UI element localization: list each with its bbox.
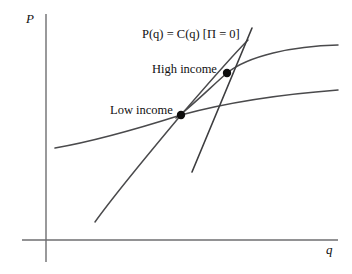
figure-canvas [0, 0, 352, 274]
zero-profit-line [192, 28, 252, 172]
high-income-label: High income [152, 63, 217, 76]
low-income-label: Low income [110, 104, 173, 117]
x-axis-label: q [326, 243, 333, 256]
lower-concave-curve [55, 90, 338, 148]
zero-profit-label: P(q) = C(q) [Π = 0] [142, 28, 240, 41]
high-income-point [223, 69, 231, 77]
upper-concave-curve [176, 45, 338, 118]
y-axis-label: P [26, 12, 34, 25]
low-income-point [177, 111, 185, 119]
economics-figure: P q P(q) = C(q) [Π = 0] High income Low … [0, 0, 352, 274]
